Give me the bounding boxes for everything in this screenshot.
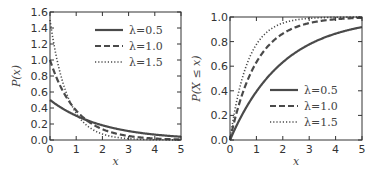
- x-tick-label: 3: [125, 143, 132, 156]
- legend-label: λ=1.5: [304, 116, 338, 129]
- series-line-solid: [230, 27, 362, 140]
- legend-label: λ=1.0: [129, 40, 163, 53]
- y-tick-label: 0.2: [31, 118, 49, 131]
- x-tick-label: 1: [73, 143, 80, 156]
- x-tick-label: 3: [306, 143, 313, 156]
- legend-label: λ=0.5: [304, 84, 338, 97]
- legend-label: λ=1.0: [304, 100, 338, 113]
- x-tick-label: 4: [151, 143, 158, 156]
- series-line-solid: [50, 100, 181, 137]
- y-axis-label: P(x): [10, 65, 23, 88]
- x-axis-label: x: [293, 155, 300, 168]
- y-tick-label: 0.0: [211, 134, 229, 147]
- legend-label: λ=1.5: [129, 56, 163, 69]
- y-axis-label: P(X ≤ x): [190, 55, 203, 102]
- y-tick-label: 0.8: [211, 36, 229, 49]
- y-tick-label: 1.2: [31, 38, 49, 51]
- y-tick-label: 1.0: [31, 54, 49, 67]
- chart-canvas: 0123450.00.20.40.60.81.01.21.41.6xP(x)λ=…: [0, 0, 377, 170]
- x-tick-label: 2: [99, 143, 106, 156]
- y-tick-label: 0.6: [211, 60, 229, 73]
- x-tick-label: 1: [253, 143, 260, 156]
- chart-panel-2: 0123450.00.20.40.60.81.0xP(X ≤ x)λ=0.5λ=…: [190, 11, 366, 168]
- x-tick-label: 2: [279, 143, 286, 156]
- legend-label: λ=0.5: [129, 24, 163, 37]
- y-tick-label: 0.4: [31, 102, 49, 115]
- legend: λ=0.5λ=1.0λ=1.5: [270, 84, 338, 129]
- x-tick-label: 5: [178, 143, 185, 156]
- legend: λ=0.5λ=1.0λ=1.5: [95, 24, 163, 69]
- y-tick-label: 0.0: [31, 134, 49, 147]
- x-tick-label: 4: [332, 143, 339, 156]
- y-tick-label: 1.4: [31, 22, 49, 35]
- x-tick-label: 5: [359, 143, 366, 156]
- x-axis-label: x: [112, 155, 119, 168]
- y-tick-label: 0.2: [211, 109, 229, 122]
- series-line-dotted: [50, 20, 181, 140]
- chart-panel-1: 0123450.00.20.40.60.81.01.21.41.6xP(x)λ=…: [10, 6, 185, 168]
- y-tick-label: 0.4: [211, 85, 229, 98]
- y-tick-label: 0.8: [31, 70, 49, 83]
- y-tick-label: 1.0: [211, 11, 229, 24]
- y-tick-label: 0.6: [31, 86, 49, 99]
- y-tick-label: 1.6: [31, 6, 49, 19]
